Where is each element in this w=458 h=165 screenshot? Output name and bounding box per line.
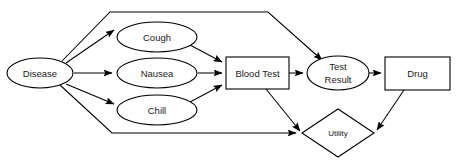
edge-disease-to-chill — [66, 84, 114, 104]
edge-blood-test-to-utility — [266, 89, 300, 131]
edge-drug-to-utility — [377, 90, 404, 130]
node-drug[interactable]: Drug — [385, 57, 450, 90]
node-cough[interactable]: Cough — [117, 22, 197, 52]
node-nausea[interactable]: Nausea — [117, 58, 197, 88]
edge-cough-to-blood-test — [190, 45, 222, 62]
node-disease[interactable]: Disease — [7, 58, 73, 88]
chill-ellipse[interactable] — [117, 95, 197, 125]
blood-test-rect[interactable] — [226, 57, 289, 89]
drug-rect[interactable] — [385, 57, 450, 90]
test-result-ellipse[interactable] — [307, 56, 369, 90]
disease-ellipse[interactable] — [7, 58, 73, 88]
edge-chill-to-blood-test — [190, 85, 222, 102]
node-blood-test[interactable]: Blood Test — [226, 57, 289, 89]
cough-ellipse[interactable] — [117, 22, 197, 52]
utility-diamond[interactable] — [302, 109, 374, 157]
node-chill[interactable]: Chill — [117, 95, 197, 125]
diagram-canvas: Disease Cough Nausea Chill Blood Test Te… — [0, 0, 458, 165]
node-test-result[interactable]: Test Result — [307, 56, 369, 90]
nausea-ellipse[interactable] — [117, 58, 197, 88]
node-utility[interactable]: Utility — [302, 109, 374, 157]
edge-disease-to-cough — [66, 30, 114, 63]
influence-diagram: Disease Cough Nausea Chill Blood Test Te… — [0, 0, 458, 165]
